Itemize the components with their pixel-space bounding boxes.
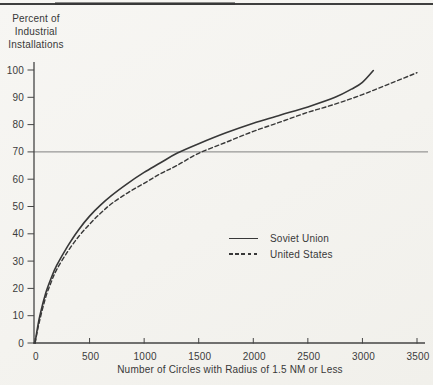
x-tick-label: 1500 bbox=[188, 351, 211, 362]
y-tick-label: 60 bbox=[12, 174, 24, 185]
x-tick-label: 500 bbox=[82, 351, 100, 362]
y-tick-label: 0 bbox=[18, 338, 24, 349]
legend-item-soviet-union: Soviet Union bbox=[229, 230, 333, 246]
chart: Percent of Industrial Installations 0102… bbox=[0, 0, 433, 385]
dashed-line-swatch bbox=[229, 253, 258, 255]
chart-canvas: 0102030405060708090100050010001500200025… bbox=[0, 0, 433, 385]
y-tick-label: 50 bbox=[12, 201, 24, 212]
x-tick-label: 3000 bbox=[352, 351, 375, 362]
x-tick-label: 0 bbox=[33, 351, 39, 362]
legend-item-united-states: United States bbox=[229, 246, 333, 262]
x-tick-label: 2500 bbox=[297, 351, 320, 362]
legend: Soviet Union United States bbox=[229, 230, 333, 262]
y-tick-label: 70 bbox=[12, 146, 24, 157]
legend-label-soviet-union: Soviet Union bbox=[270, 233, 329, 244]
y-tick-label: 90 bbox=[12, 92, 24, 103]
x-tick-label: 3500 bbox=[406, 351, 429, 362]
x-tick-label: 2000 bbox=[243, 351, 266, 362]
y-tick-label: 10 bbox=[12, 310, 24, 321]
y-tick-label: 80 bbox=[12, 119, 24, 130]
solid-line-swatch bbox=[229, 238, 258, 239]
series-line-united-states bbox=[35, 73, 417, 343]
legend-label-united-states: United States bbox=[270, 249, 333, 260]
y-tick-label: 20 bbox=[12, 283, 24, 294]
y-tick-label: 40 bbox=[12, 228, 24, 239]
x-axis-title: Number of Circles with Radius of 1.5 NM … bbox=[27, 364, 433, 375]
x-tick-label: 1000 bbox=[134, 351, 157, 362]
series-line-soviet-union bbox=[35, 71, 373, 344]
y-tick-label: 100 bbox=[7, 65, 25, 76]
y-tick-label: 30 bbox=[12, 256, 24, 267]
